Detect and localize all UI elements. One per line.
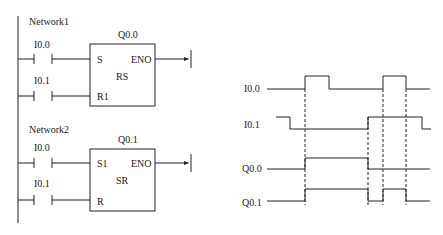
network1-output-label: Q0.0 [118,29,138,40]
signal-label: I0.1 [244,119,260,130]
signal-label: I0.0 [244,83,260,94]
network1-contact1-label: I0.0 [34,39,50,50]
network1: Network1 Q0.0 I0.0 S ENO RS R1 I0.1 [18,16,191,106]
network2-contact2-label: I0.1 [34,178,50,189]
pin-eno: ENO [131,158,152,169]
pin-reset: R [97,196,104,207]
contact-no-icon [18,195,90,205]
pin-set: S [97,54,103,65]
block-type: RS [116,71,128,82]
pin-set: S1 [97,158,108,169]
signal-label: Q0.1 [242,197,262,208]
network2: Network2 Q0.1 I0.0 S1 ENO SR R I0.1 [18,124,191,211]
network2-title: Network2 [29,124,69,135]
waveform-i00 [267,76,430,89]
contact-no-icon [18,91,90,101]
timing-guides [305,89,406,205]
network2-contact1-label: I0.0 [34,142,50,153]
network1-contact2-label: I0.1 [34,75,50,86]
network2-output-label: Q0.1 [118,134,138,145]
network1-title: Network1 [29,16,69,27]
diagram-canvas: Network1 Q0.0 I0.0 S ENO RS R1 I0.1 Netw… [0,0,443,235]
pin-reset: R1 [97,91,109,102]
signal-label: Q0.0 [242,163,262,174]
contact-no-icon [18,158,90,168]
arrow-icon [184,57,189,61]
contact-no-icon [18,54,90,64]
waveform-i01 [276,117,431,129]
arrow-icon [184,161,189,165]
timing-diagram: I0.0 I0.1 Q0.0 Q0.1 [242,76,431,208]
block-type: SR [116,175,129,186]
pin-eno: ENO [131,54,152,65]
